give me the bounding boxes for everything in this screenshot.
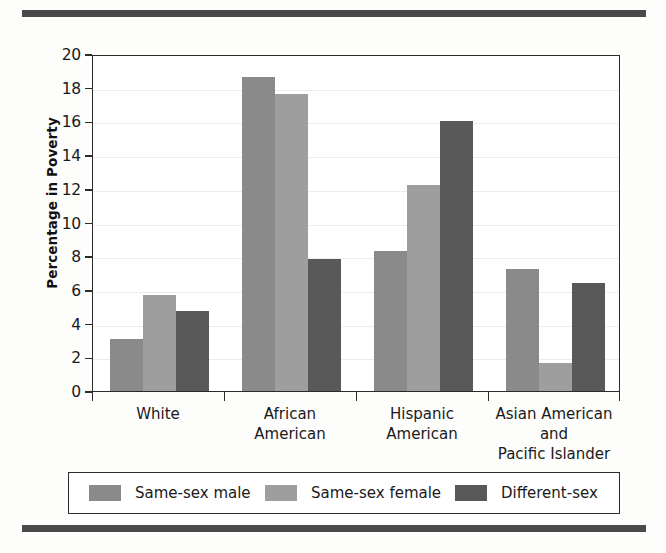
bars-container: [93, 56, 619, 391]
y-tick: 8: [40, 247, 92, 267]
legend-item[interactable]: Same-sex male: [89, 484, 251, 502]
y-tick-label: 10: [62, 215, 81, 233]
y-tick: 12: [40, 180, 92, 200]
x-axis-tick: [619, 392, 620, 401]
y-axis: Percentage in Poverty 20181614121086420: [40, 45, 92, 402]
x-axis-label: Asian American andPacific Islander: [480, 404, 628, 464]
y-tick-mark: [85, 155, 92, 157]
bar[interactable]: [176, 311, 209, 391]
y-tick: 20: [40, 45, 92, 65]
y-tick: 16: [40, 112, 92, 132]
x-axis-label-line: American: [348, 424, 496, 444]
legend-label: Same-sex male: [135, 484, 251, 502]
x-axis-label-line: Asian American and: [480, 404, 628, 444]
legend-label: Different-sex: [501, 484, 598, 502]
y-tick: 0: [40, 382, 92, 402]
x-axis-label-line: African: [216, 404, 364, 424]
y-tick-label: 2: [71, 349, 81, 367]
x-axis-tick: [224, 392, 225, 401]
y-tick-mark: [85, 391, 92, 393]
y-tick: 4: [40, 315, 92, 335]
y-tick: 14: [40, 146, 92, 166]
bar[interactable]: [407, 185, 440, 391]
legend-swatch: [265, 485, 297, 501]
y-tick: 10: [40, 214, 92, 234]
legend-item[interactable]: Different-sex: [455, 484, 598, 502]
bar-group: [225, 56, 357, 391]
bar[interactable]: [440, 121, 473, 391]
bar[interactable]: [572, 283, 605, 391]
x-axis-label-line: American: [216, 424, 364, 444]
y-tick-mark: [85, 54, 92, 56]
x-axis-tick: [488, 392, 489, 401]
x-axis-tick: [356, 392, 357, 401]
x-axis-tick: [92, 392, 93, 401]
y-tick-label: 20: [62, 46, 81, 64]
x-axis-label: HispanicAmerican: [348, 404, 496, 444]
y-tick: 18: [40, 79, 92, 99]
bar[interactable]: [110, 339, 143, 391]
y-tick-label: 14: [62, 147, 81, 165]
y-tick: 6: [40, 281, 92, 301]
x-axis-label-line: White: [84, 404, 232, 424]
bar[interactable]: [539, 363, 572, 391]
y-tick-label: 4: [71, 316, 81, 334]
x-axis: WhiteAfricanAmericanHispanicAmericanAsia…: [92, 392, 620, 462]
legend-swatch: [455, 485, 487, 501]
bar[interactable]: [506, 269, 539, 391]
plot-area: [92, 55, 620, 392]
y-tick-label: 8: [71, 248, 81, 266]
y-tick-mark: [85, 223, 92, 225]
bar-group: [93, 56, 225, 391]
y-tick-label: 18: [62, 80, 81, 98]
y-axis-title: Percentage in Poverty: [44, 103, 60, 303]
bar[interactable]: [242, 77, 275, 391]
y-tick-mark: [85, 290, 92, 292]
y-tick-mark: [85, 324, 92, 326]
top-rule: [22, 10, 646, 17]
chart-legend: Same-sex maleSame-sex femaleDifferent-se…: [68, 472, 620, 514]
chart-page: Percentage in Poverty 20181614121086420 …: [0, 0, 666, 553]
y-tick-mark: [85, 358, 92, 360]
legend-label: Same-sex female: [311, 484, 441, 502]
y-tick: 2: [40, 348, 92, 368]
y-tick-mark: [85, 88, 92, 90]
legend-swatch: [89, 485, 121, 501]
bar[interactable]: [308, 259, 341, 391]
y-tick-mark: [85, 189, 92, 191]
bar-group: [357, 56, 489, 391]
y-tick-label: 12: [62, 181, 81, 199]
bar-group: [489, 56, 621, 391]
y-tick-label: 0: [71, 383, 81, 401]
y-tick-mark: [85, 256, 92, 258]
y-tick-mark: [85, 122, 92, 124]
legend-item[interactable]: Same-sex female: [265, 484, 441, 502]
x-axis-label-line: Pacific Islander: [480, 444, 628, 464]
bar[interactable]: [275, 94, 308, 391]
x-axis-label: AfricanAmerican: [216, 404, 364, 444]
x-axis-label-line: Hispanic: [348, 404, 496, 424]
y-tick-label: 6: [71, 282, 81, 300]
bottom-rule: [22, 525, 646, 532]
bar[interactable]: [143, 295, 176, 391]
y-tick-label: 16: [62, 113, 81, 131]
x-axis-label: White: [84, 404, 232, 424]
bar[interactable]: [374, 251, 407, 391]
